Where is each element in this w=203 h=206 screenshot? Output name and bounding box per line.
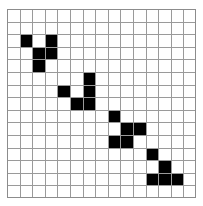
grid-cell-filled: [20, 34, 33, 47]
grid-cell-filled: [32, 59, 45, 72]
grid-cell-filled: [83, 97, 96, 110]
grid-container: [7, 9, 196, 198]
grid-cell-filled: [32, 47, 45, 60]
grid-cell-filled: [146, 173, 159, 186]
grid-cell-filled: [45, 34, 58, 47]
grid-cell-filled: [171, 173, 184, 186]
grid-cell-filled: [83, 72, 96, 85]
grid-canvas: [7, 9, 196, 198]
grid-cell-filled: [158, 160, 171, 173]
grid-cell-filled: [57, 85, 70, 98]
grid-cell-filled: [158, 173, 171, 186]
grid-cell-filled: [120, 122, 133, 135]
grid-cell-filled: [146, 148, 159, 161]
grid-cell-filled: [108, 110, 121, 123]
grid-cell-filled: [108, 135, 121, 148]
grid-pattern-figure: [0, 0, 203, 206]
grid-cell-filled: [70, 97, 83, 110]
grid-cell-filled: [120, 135, 133, 148]
grid-cell-filled: [45, 47, 58, 60]
grid-cell-filled: [133, 122, 146, 135]
grid-cell-filled: [83, 85, 96, 98]
